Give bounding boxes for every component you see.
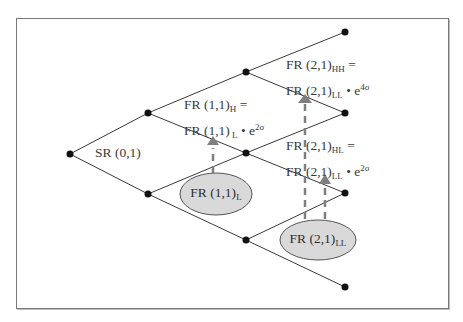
text: • e bbox=[238, 123, 255, 138]
superscript: 2σ bbox=[255, 122, 264, 132]
subscript: HL bbox=[332, 145, 344, 155]
text: = bbox=[344, 138, 355, 153]
subscript: LL bbox=[335, 238, 346, 248]
label-fr11-high: FR (1,1)H = FR (1,1) L • e2σ bbox=[184, 96, 264, 144]
text: FR (1,1) bbox=[184, 97, 230, 112]
subscript: L bbox=[236, 192, 242, 202]
text: FR (2,1) bbox=[286, 164, 332, 179]
text: • e bbox=[343, 164, 360, 179]
superscript: 4σ bbox=[360, 82, 369, 92]
label-fr21-highhigh: FR (2,1)HH = FR (2,1)LL • e4σ bbox=[286, 56, 370, 104]
text: FR (1,1) bbox=[184, 123, 230, 138]
subscript: HH bbox=[332, 64, 345, 74]
text: FR (2,1) bbox=[286, 83, 332, 98]
tree-canvas bbox=[0, 0, 463, 322]
text: FR (2,1) bbox=[286, 57, 332, 72]
text: = bbox=[345, 57, 356, 72]
ellipse-fr21-lowlow-label: FR (2,1)LL bbox=[280, 231, 356, 248]
label-sr01-text: SR (0,1) bbox=[95, 145, 141, 160]
text: FR (2,1) bbox=[286, 138, 332, 153]
text: FR (1,1) bbox=[190, 185, 236, 200]
subscript: LL bbox=[332, 90, 343, 100]
text: • e bbox=[343, 83, 360, 98]
subscript: LL bbox=[332, 171, 343, 181]
label-sr01: SR (0,1) bbox=[95, 144, 141, 162]
subscript: L bbox=[230, 130, 238, 140]
label-fr21-highlow: FR (2,1)HL = FR (2,1)LL • e2σ bbox=[286, 137, 370, 185]
ellipse-fr11-low-label: FR (1,1)L bbox=[180, 185, 252, 202]
text: = bbox=[236, 97, 247, 112]
text: FR (2,1) bbox=[290, 231, 336, 246]
superscript: 2σ bbox=[360, 163, 369, 173]
